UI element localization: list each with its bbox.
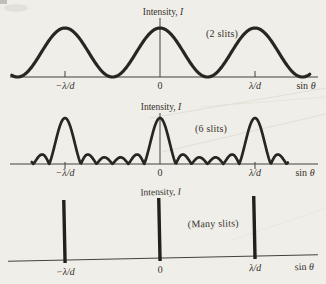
tick-label: 0 bbox=[158, 80, 163, 91]
intensity-spike bbox=[159, 198, 160, 261]
x-axis-title: sin θ bbox=[295, 167, 314, 178]
tick-label: 0 bbox=[158, 167, 163, 178]
slit-count-annotation: (Many slits) bbox=[188, 217, 239, 230]
plot-6-slits: −λ/d0λ/dsin θ Intensity, I (6 slits) bbox=[10, 102, 318, 178]
x-axis-title: sin θ bbox=[295, 261, 314, 272]
x-axis bbox=[8, 255, 318, 261]
intensity-curve bbox=[12, 28, 310, 77]
intensity-spike bbox=[254, 196, 255, 259]
plot-2-slits: −λ/d0λ/dsin θ Intensity, I (2 slits) bbox=[10, 7, 318, 91]
tick-label: 0 bbox=[158, 264, 163, 275]
y-axis-label: Intensity, I bbox=[143, 7, 184, 17]
tick-label: −λ/d bbox=[56, 266, 76, 277]
plot-6-slits-generated: −λ/d0λ/dsin θ bbox=[10, 113, 318, 178]
slit-count-annotation: (2 slits) bbox=[206, 28, 238, 40]
corner-speck bbox=[0, 0, 7, 4]
tick-label: λ/d bbox=[248, 167, 262, 178]
intensity-spike bbox=[64, 200, 65, 263]
tick-label: λ/d bbox=[248, 262, 262, 273]
figure-canvas: −λ/d0λ/dsin θ Intensity, I (2 slits) −λ/… bbox=[0, 0, 326, 284]
plot-2-slits-generated: −λ/d0λ/dsin θ bbox=[10, 18, 318, 91]
plot-many-slits-generated: −λ/d0λ/dsin θ bbox=[7, 195, 319, 278]
plot-many-slits: −λ/d0λ/dsin θ Intensity, I (Many slits) bbox=[7, 184, 319, 278]
tick-label: −λ/d bbox=[56, 80, 76, 91]
tick-label: −λ/d bbox=[56, 167, 76, 178]
y-axis-label: Intensity, I bbox=[140, 187, 182, 198]
diffraction-figure: −λ/d0λ/dsin θ Intensity, I (2 slits) −λ/… bbox=[0, 0, 326, 284]
y-axis-label: Intensity, I bbox=[141, 102, 182, 112]
x-axis-title: sin θ bbox=[296, 80, 315, 91]
slit-count-annotation: (6 slits) bbox=[195, 123, 227, 135]
corner-smudge bbox=[4, 4, 28, 12]
tick-label: λ/d bbox=[248, 80, 262, 91]
